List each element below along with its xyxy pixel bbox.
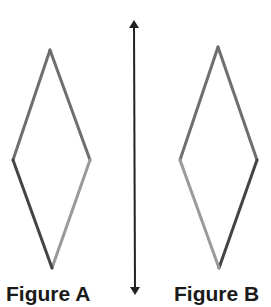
figure-b-label: Figure B bbox=[174, 283, 259, 304]
line-of-reflection bbox=[134, 24, 135, 291]
figure-a-label: Figure A bbox=[6, 283, 90, 304]
figure-a-edge-bottom-left bbox=[13, 160, 52, 268]
figure-b-edge-bottom-left bbox=[180, 160, 219, 268]
reflection-diagram: Figure A Figure B bbox=[0, 0, 271, 307]
figure-a-edge-top-right bbox=[50, 50, 90, 160]
figure-b-edge-bottom-right bbox=[219, 160, 257, 268]
figure-b-edge-top-left bbox=[180, 47, 218, 160]
figure-b-edge-top-right bbox=[218, 47, 257, 160]
figure-a-edge-top-left bbox=[13, 50, 50, 160]
figure-a-edge-bottom-right bbox=[52, 160, 90, 268]
figure-a-rhombus bbox=[13, 50, 90, 268]
diagram-graphics bbox=[0, 0, 271, 307]
figure-b-rhombus bbox=[180, 47, 257, 268]
